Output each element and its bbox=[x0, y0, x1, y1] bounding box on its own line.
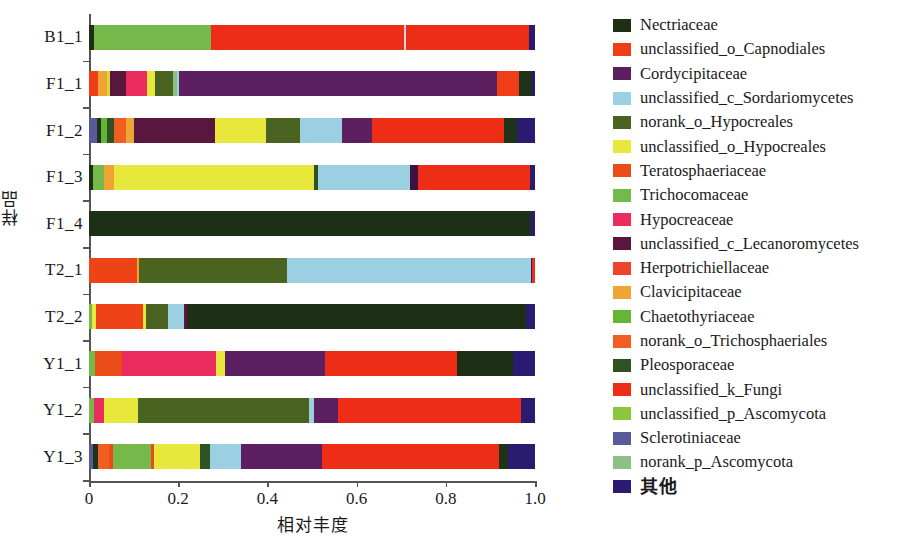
bar-y1_3[interactable] bbox=[89, 444, 535, 469]
legend-label: unclassified_c_Lecanoromycetes bbox=[640, 235, 859, 253]
legend-label: norank_p_Ascomycota bbox=[640, 453, 793, 471]
legend-item-3[interactable]: unclassified_c_Sordariomycetes bbox=[613, 86, 903, 110]
y-tick-label-f1_3: F1_3 bbox=[21, 167, 83, 187]
legend-swatch-icon bbox=[613, 116, 631, 129]
bar-segment bbox=[287, 258, 530, 283]
bar-track bbox=[89, 444, 535, 469]
bar-track bbox=[89, 71, 535, 96]
legend-item-17[interactable]: Sclerotiniaceae bbox=[613, 426, 903, 450]
legend-label: unclassified_o_Hypocreales bbox=[640, 138, 826, 156]
bar-track bbox=[89, 118, 535, 143]
bar-segment bbox=[532, 71, 535, 96]
legend-label: Sclerotiniaceae bbox=[640, 429, 741, 447]
legend-label: Nectriaceae bbox=[640, 16, 718, 34]
y-tick-label-y1_3: Y1_3 bbox=[21, 447, 83, 467]
bar-segment bbox=[104, 165, 114, 190]
bar-segment bbox=[532, 258, 535, 283]
legend-swatch-icon bbox=[613, 359, 631, 372]
bar-segment bbox=[508, 444, 535, 469]
y-tick-label-t2_2: T2_2 bbox=[21, 307, 83, 327]
legend-item-18[interactable]: norank_p_Ascomycota bbox=[613, 450, 903, 474]
legend-item-10[interactable]: Herpotrichiellaceae bbox=[613, 256, 903, 280]
bar-t2_1[interactable] bbox=[89, 258, 535, 283]
bar-b1_1[interactable] bbox=[89, 25, 535, 50]
bar-segment bbox=[529, 25, 535, 50]
bar-segment bbox=[342, 118, 371, 143]
bar-t2_2[interactable] bbox=[89, 304, 535, 329]
legend-item-6[interactable]: Teratosphaeriaceae bbox=[613, 159, 903, 183]
bar-segment bbox=[338, 398, 521, 423]
x-axis-title: 相对丰度 bbox=[89, 511, 537, 536]
legend-item-15[interactable]: unclassified_k_Fungi bbox=[613, 377, 903, 401]
y-tick-mark bbox=[83, 340, 89, 342]
legend-item-4[interactable]: norank_o_Hypocreales bbox=[613, 110, 903, 134]
legend-label: Teratosphaeriaceae bbox=[640, 162, 766, 180]
bar-segment bbox=[318, 165, 409, 190]
bar-segment bbox=[155, 71, 173, 96]
bar-f1_3[interactable] bbox=[89, 165, 535, 190]
legend-item-14[interactable]: Pleosporaceae bbox=[613, 353, 903, 377]
bar-segment bbox=[314, 398, 339, 423]
legend-item-1[interactable]: unclassified_o_Capnodiales bbox=[613, 37, 903, 61]
y-tick-mark bbox=[83, 154, 89, 156]
bar-segment bbox=[96, 304, 143, 329]
x-tick-mark bbox=[357, 481, 359, 487]
legend-label: Hypocreaceae bbox=[640, 211, 733, 229]
legend-item-12[interactable]: Chaetothyriaceae bbox=[613, 305, 903, 329]
bar-segment bbox=[211, 25, 404, 50]
bar-f1_1[interactable] bbox=[89, 71, 535, 96]
bar-segment bbox=[499, 444, 508, 469]
bar-segment bbox=[410, 165, 418, 190]
bar-segment bbox=[210, 444, 241, 469]
bar-segment bbox=[526, 304, 535, 329]
bar-segment bbox=[126, 118, 135, 143]
bar-y1_2[interactable] bbox=[89, 398, 535, 423]
bar-segment bbox=[457, 351, 513, 376]
legend-label: unclassified_k_Fungi bbox=[640, 381, 782, 399]
x-axis-line bbox=[89, 481, 537, 483]
legend-swatch-icon bbox=[613, 140, 631, 153]
bar-segment bbox=[497, 71, 519, 96]
legend-swatch-icon bbox=[613, 407, 631, 420]
legend-item-5[interactable]: unclassified_o_Hypocreales bbox=[613, 134, 903, 158]
x-tick-mark bbox=[178, 481, 180, 487]
bar-segment bbox=[418, 165, 531, 190]
bar-track bbox=[89, 165, 535, 190]
legend: Nectriaceaeunclassified_o_CapnodialesCor… bbox=[613, 13, 903, 499]
y-tick-label-t2_1: T2_1 bbox=[21, 260, 83, 280]
legend-item-0[interactable]: Nectriaceae bbox=[613, 13, 903, 37]
bar-segment bbox=[134, 118, 215, 143]
legend-item-2[interactable]: Cordycipitaceae bbox=[613, 62, 903, 86]
bar-segment bbox=[146, 304, 168, 329]
bar-segment bbox=[94, 25, 211, 50]
bar-segment bbox=[113, 444, 151, 469]
x-tick-mark bbox=[446, 481, 448, 487]
legend-item-13[interactable]: norank_o_Trichosphaeriales bbox=[613, 329, 903, 353]
bar-segment bbox=[147, 71, 155, 96]
legend-item-7[interactable]: Trichocomaceae bbox=[613, 183, 903, 207]
bar-segment bbox=[179, 71, 497, 96]
bar-f1_4[interactable] bbox=[89, 211, 535, 236]
x-tick-label-0-2: 0.2 bbox=[155, 489, 201, 509]
x-tick-mark bbox=[267, 481, 269, 487]
x-tick-mark bbox=[535, 481, 537, 487]
bar-f1_2[interactable] bbox=[89, 118, 535, 143]
legend-item-9[interactable]: unclassified_c_Lecanoromycetes bbox=[613, 232, 903, 256]
y-tick-mark bbox=[83, 433, 89, 435]
plot-area bbox=[89, 14, 535, 480]
legend-swatch-icon bbox=[613, 432, 631, 445]
legend-item-16[interactable]: unclassified_p_Ascomycota bbox=[613, 402, 903, 426]
legend-item-11[interactable]: Clavicipitaceae bbox=[613, 280, 903, 304]
legend-item-8[interactable]: Hypocreaceae bbox=[613, 207, 903, 231]
bar-track bbox=[89, 258, 535, 283]
bar-segment bbox=[521, 398, 535, 423]
bar-segment bbox=[406, 25, 529, 50]
legend-item-19[interactable]: 其他 bbox=[613, 475, 903, 499]
bar-segment bbox=[513, 351, 535, 376]
bar-segment bbox=[531, 211, 535, 236]
bar-segment bbox=[154, 444, 201, 469]
bar-y1_1[interactable] bbox=[89, 351, 535, 376]
legend-label: Trichocomaceae bbox=[640, 186, 748, 204]
legend-swatch-icon bbox=[613, 480, 631, 493]
legend-label: norank_o_Hypocreales bbox=[640, 113, 793, 131]
